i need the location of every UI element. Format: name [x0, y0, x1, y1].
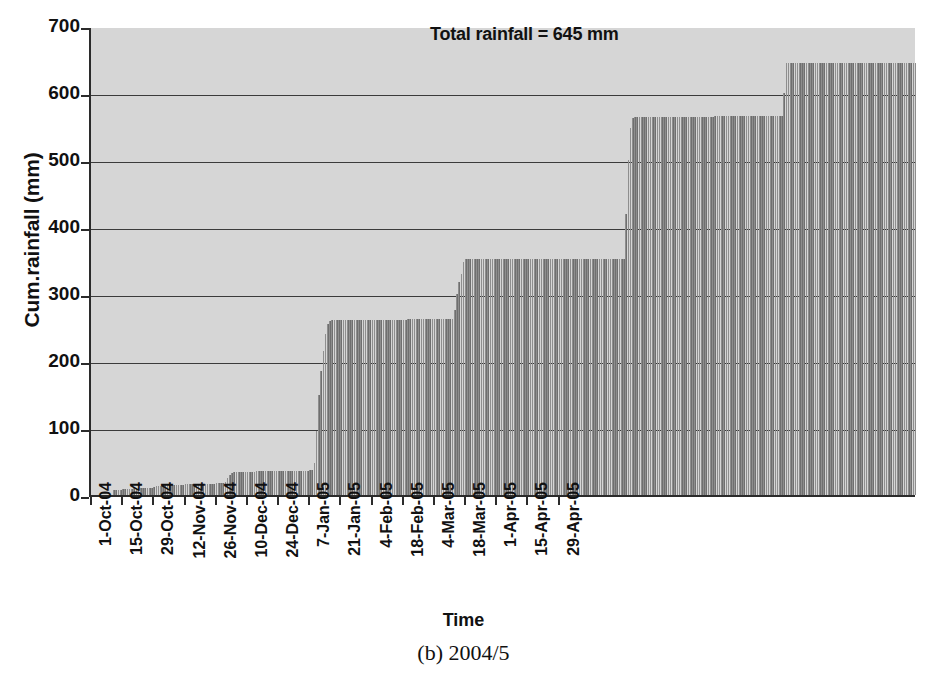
x-tick-label: 29-Apr-05: [565, 482, 583, 602]
x-tick-mark: [308, 497, 310, 505]
x-tick-mark: [495, 497, 497, 505]
plot-area: [89, 28, 915, 497]
x-tick-mark: [433, 497, 435, 505]
x-tick-mark: [246, 497, 248, 505]
total-rainfall-annotation: Total rainfall = 645 mm: [430, 24, 619, 45]
x-tick-label: 21-Jan-05: [346, 482, 364, 602]
x-tick-mark: [277, 497, 279, 505]
y-tick-label: 700: [8, 15, 80, 37]
bar: [915, 63, 917, 495]
x-tick-mark: [526, 497, 528, 505]
y-tick-mark: [81, 296, 89, 298]
x-tick-mark: [339, 497, 341, 505]
y-tick-label: 100: [8, 417, 80, 439]
x-tick-label: 15-Apr-05: [533, 482, 551, 602]
x-tick-label: 7-Jan-05: [315, 482, 333, 602]
y-tick-mark: [81, 229, 89, 231]
y-tick-label: 600: [8, 82, 80, 104]
x-axis-title: Time: [0, 610, 927, 631]
y-tick-mark: [81, 28, 89, 30]
y-tick-mark: [81, 497, 89, 499]
x-tick-label: 4-Mar-05: [440, 482, 458, 602]
y-tick-mark: [81, 95, 89, 97]
x-tick-label: 10-Dec-04: [253, 482, 271, 602]
y-tick-mark: [81, 363, 89, 365]
y-tick-label: 200: [8, 350, 80, 372]
x-tick-label: 26-Nov-04: [222, 482, 240, 602]
x-tick-mark: [215, 497, 217, 505]
rainfall-chart-figure: Cum.rainfall (mm) 0100200300400500600700…: [0, 0, 927, 682]
x-tick-mark: [371, 497, 373, 505]
x-tick-label: 1-Apr-05: [502, 482, 520, 602]
x-tick-mark: [184, 497, 186, 505]
y-tick-label: 0: [8, 484, 80, 506]
x-tick-mark: [121, 497, 123, 505]
x-tick-label: 18-Mar-05: [471, 482, 489, 602]
y-tick-label: 400: [8, 216, 80, 238]
x-tick-label: 12-Nov-04: [191, 482, 209, 602]
x-tick-label: 18-Feb-05: [409, 482, 427, 602]
y-tick-label: 500: [8, 149, 80, 171]
x-tick-mark: [558, 497, 560, 505]
x-tick-label: 24-Dec-04: [284, 482, 302, 602]
x-tick-label: 29-Oct-04: [159, 482, 177, 602]
figure-caption: (b) 2004/5: [0, 640, 927, 666]
x-tick-mark: [464, 497, 466, 505]
x-tick-mark: [402, 497, 404, 505]
x-tick-label: 4-Feb-05: [378, 482, 396, 602]
x-tick-label: 15-Oct-04: [128, 482, 146, 602]
x-tick-mark: [152, 497, 154, 505]
y-tick-label: 300: [8, 283, 80, 305]
y-tick-mark: [81, 162, 89, 164]
bar-series: [91, 28, 915, 495]
y-tick-mark: [81, 430, 89, 432]
x-tick-mark: [90, 497, 92, 505]
x-tick-label: 1-Oct-04: [97, 482, 115, 602]
